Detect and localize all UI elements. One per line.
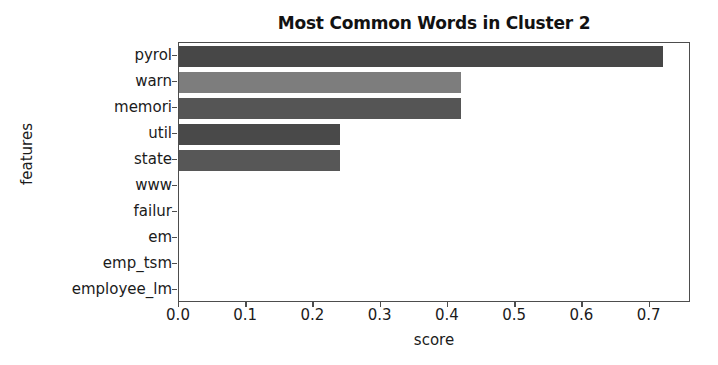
- x-tick-mark: [649, 302, 650, 307]
- x-tick-label-0.4: 0.4: [435, 306, 459, 324]
- bar-row: [179, 225, 689, 251]
- y-axis-title: features: [18, 104, 36, 204]
- y-tick-mark: [172, 263, 177, 264]
- x-tick-mark: [514, 302, 515, 307]
- bar-row: [179, 95, 689, 121]
- bar-row: [179, 43, 689, 69]
- y-tick-label-memori: memori: [12, 99, 172, 115]
- y-tick-mark: [172, 159, 177, 160]
- x-tick-mark: [380, 302, 381, 307]
- y-tick-mark: [172, 237, 177, 238]
- y-tick-label-www: www: [12, 177, 172, 193]
- chart-title: Most Common Words in Cluster 2: [178, 13, 690, 33]
- x-tick-label-0.6: 0.6: [570, 306, 594, 324]
- x-tick-label-0.2: 0.2: [301, 306, 325, 324]
- bar-row: [179, 251, 689, 277]
- y-tick-mark: [172, 185, 177, 186]
- y-tick-mark: [172, 81, 177, 82]
- bar-util: [179, 124, 340, 145]
- y-tick-label-emp_tsm: emp_tsm: [12, 255, 172, 271]
- plot-area: [178, 42, 690, 302]
- x-tick-mark: [178, 302, 179, 307]
- x-tick-mark: [581, 302, 582, 307]
- bar-row: [179, 69, 689, 95]
- x-tick-label-0.1: 0.1: [233, 306, 257, 324]
- y-tick-mark: [172, 55, 177, 56]
- bar-row: [179, 147, 689, 173]
- bar-chart-figure: Most Common Words in Cluster 2 pyrolwarn…: [0, 0, 718, 365]
- x-tick-label-0.7: 0.7: [637, 306, 661, 324]
- x-tick-mark: [245, 302, 246, 307]
- x-tick-label-0.3: 0.3: [368, 306, 392, 324]
- x-tick-label-0.5: 0.5: [502, 306, 526, 324]
- y-tick-label-state: state: [12, 151, 172, 167]
- y-tick-label-pyrol: pyrol: [12, 47, 172, 63]
- bar-memori: [179, 98, 461, 119]
- bar-pyrol: [179, 46, 663, 67]
- bar-row: [179, 199, 689, 225]
- x-tick-mark: [312, 302, 313, 307]
- y-tick-label-failur: failur: [12, 203, 172, 219]
- bar-warn: [179, 72, 461, 93]
- bar-state: [179, 150, 340, 171]
- y-tick-label-util: util: [12, 125, 172, 141]
- y-tick-mark: [172, 133, 177, 134]
- bar-row: [179, 173, 689, 199]
- x-tick-label-0.0: 0.0: [166, 306, 190, 324]
- y-tick-mark: [172, 211, 177, 212]
- y-tick-label-em: em: [12, 229, 172, 245]
- y-tick-mark: [172, 289, 177, 290]
- y-tick-mark: [172, 107, 177, 108]
- x-axis-tick-labels: 0.00.10.20.30.40.50.60.7: [178, 306, 690, 330]
- y-tick-label-employee_lm: employee_lm: [12, 281, 172, 297]
- bar-row: [179, 121, 689, 147]
- bar-row: [179, 277, 689, 302]
- x-axis-title: score: [178, 331, 690, 349]
- x-tick-mark: [447, 302, 448, 307]
- y-tick-label-warn: warn: [12, 73, 172, 89]
